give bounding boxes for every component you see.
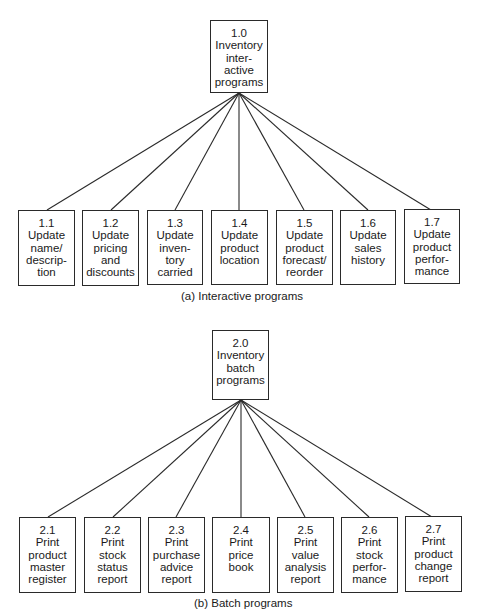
node-label-line: product — [285, 242, 323, 254]
connector-2-1 — [48, 400, 241, 517]
node-label-line: Print — [229, 536, 253, 548]
node-label-line: product — [414, 548, 452, 560]
node-number: 2.4 — [233, 524, 249, 536]
node-label-line: report — [290, 573, 320, 585]
connector-1-6 — [239, 93, 368, 210]
node-2-2: 2.2 Print stock status report — [84, 517, 141, 593]
connector-2-3 — [176, 400, 241, 517]
node-number: 2.3 — [169, 524, 185, 536]
node-label-line: Update — [156, 229, 193, 241]
node-label-line: carried — [157, 266, 192, 278]
node-label-line: change — [415, 560, 453, 572]
node-label-line: perfor- — [353, 561, 387, 573]
connector-1-3 — [175, 93, 239, 210]
node-number: 1.5 — [297, 217, 313, 229]
node-label-line: inven- — [159, 242, 190, 254]
node-1-5: 1.5 Update product forecast/ reorder — [276, 210, 333, 285]
node-label-line: programs — [215, 76, 264, 88]
node-number: 2.0 — [233, 337, 249, 349]
node-1-6: 1.6 Update sales history — [340, 210, 396, 285]
root-node-interactive: 1.0 Inventory inter- active programs — [210, 20, 268, 93]
node-2-6: 2.6 Print stock perfor- mance — [341, 517, 398, 593]
node-label-line: status — [97, 561, 128, 573]
node-number: 2.6 — [362, 524, 378, 536]
node-2-1: 2.1 Print product master register — [19, 517, 76, 593]
node-label-line: location — [220, 254, 260, 266]
node-label-line: Update — [221, 229, 258, 241]
node-label-line: report — [97, 573, 127, 585]
node-label-line: report — [161, 573, 191, 585]
node-label-line: value — [292, 549, 320, 561]
caption-interactive: (a) Interactive programs — [181, 290, 303, 302]
node-1-1: 1.1 Update name/ descrip- tion — [18, 210, 75, 286]
node-label-line: stock — [99, 549, 126, 561]
node-number: 1.1 — [39, 217, 55, 229]
node-label-line: Update — [92, 229, 129, 241]
node-2-4: 2.4 Print price book — [212, 517, 270, 593]
node-label-line: reorder — [286, 266, 323, 278]
node-label-line: Update — [349, 229, 386, 241]
node-label-line: batch — [226, 362, 254, 374]
node-number: 1.4 — [232, 217, 248, 229]
node-1-4: 1.4 Update product location — [211, 210, 268, 285]
node-label-line: and — [101, 254, 120, 266]
node-label-line: Print — [165, 536, 189, 548]
node-2-7: 2.7 Print product change report — [405, 516, 462, 592]
node-label-line: active — [224, 64, 254, 76]
node-label-line: Print — [36, 536, 60, 548]
node-label-line: Update — [413, 228, 450, 240]
node-label-line: master — [30, 561, 65, 573]
node-number: 2.7 — [426, 523, 442, 535]
node-number: 2.5 — [298, 524, 314, 536]
node-2-3: 2.3 Print purchase advice report — [148, 517, 205, 593]
caption-batch: (b) Batch programs — [194, 597, 292, 609]
node-label-line: programs — [216, 374, 265, 386]
node-label-line: Inventory — [217, 349, 264, 361]
connector-1-1 — [47, 93, 239, 210]
node-1-2: 1.2 Update pricing and discounts — [82, 210, 139, 286]
node-label-line: name/ — [31, 242, 63, 254]
connector-2-6 — [241, 400, 369, 517]
connector-2-7 — [241, 400, 432, 517]
root-node-batch: 2.0 Inventory batch programs — [212, 330, 269, 400]
connector-1-5 — [239, 93, 304, 210]
node-label-line: tion — [37, 266, 56, 278]
node-label-line: Update — [286, 229, 323, 241]
node-label-line: Print — [101, 536, 125, 548]
node-label-line: tory — [165, 254, 184, 266]
node-label-line: perfor- — [415, 253, 449, 265]
node-1-3: 1.3 Update inven- tory carried — [147, 210, 203, 285]
node-label-line: mance — [415, 265, 450, 277]
node-label-line: product — [220, 242, 258, 254]
node-label-line: forecast/ — [282, 254, 326, 266]
node-label-line: report — [418, 572, 448, 584]
node-number: 1.3 — [167, 217, 183, 229]
node-label-line: descrip- — [26, 254, 67, 266]
connector-1-7 — [239, 93, 431, 210]
connector-2-2 — [113, 400, 241, 517]
node-label-line: Print — [422, 535, 446, 547]
node-label-line: Inventory — [215, 39, 262, 51]
node-number: 1.6 — [360, 217, 376, 229]
node-label-line: advice — [160, 561, 193, 573]
node-number: 1.0 — [231, 27, 247, 39]
node-label-line: Update — [28, 229, 65, 241]
node-label-line: book — [229, 561, 254, 573]
node-2-5: 2.5 Print value analysis report — [277, 517, 334, 593]
node-number: 2.1 — [40, 524, 56, 536]
node-label-line: stock — [356, 549, 383, 561]
node-number: 1.2 — [103, 217, 119, 229]
node-label-line: history — [351, 254, 385, 266]
node-label-line: purchase — [153, 549, 200, 561]
node-label-line: pricing — [94, 242, 128, 254]
node-label-line: product — [28, 549, 66, 561]
node-label-line: sales — [355, 242, 382, 254]
node-label-line: inter- — [226, 52, 252, 64]
node-label-line: price — [229, 549, 254, 561]
node-number: 2.2 — [105, 524, 121, 536]
node-label-line: discounts — [86, 266, 135, 278]
node-label-line: register — [28, 573, 66, 585]
node-label-line: mance — [352, 573, 387, 585]
connector-1-2 — [111, 93, 239, 210]
node-label-line: analysis — [285, 561, 327, 573]
